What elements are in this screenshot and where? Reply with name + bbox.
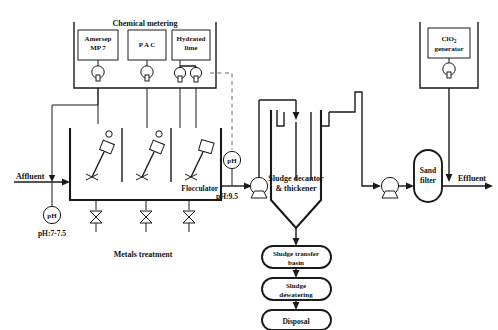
agitator-1[interactable] <box>86 131 114 180</box>
hydrated-lime-label-line1: Hydrated <box>177 35 206 43</box>
chemical-box-pac[interactable]: P A C <box>128 30 166 60</box>
diagram-canvas: Chemical metering Amersep MP 7 P A C Hyd… <box>0 0 498 330</box>
transfer-to-dewatering-arrow <box>293 270 300 278</box>
decantor-weir-right <box>321 110 329 126</box>
decantor-label-line1: Sludge decantor <box>268 174 324 183</box>
chemical-box-hydrated-lime[interactable]: Hydrated lime <box>172 30 210 60</box>
sludge-transfer-basin[interactable]: Sludge transfer basin <box>262 246 331 268</box>
pump-base-icon <box>447 72 451 78</box>
agitator-motor-icon[interactable] <box>156 131 162 137</box>
amersep-feed-arrow <box>49 175 55 182</box>
instrument-ph-influent[interactable]: pH pH:7-7.5 <box>38 182 66 238</box>
metals-treatment-label: Metals treatment <box>114 250 173 259</box>
instrument-ph-flocculator[interactable]: pH pH:9.5 <box>216 151 241 201</box>
overflow-line <box>329 92 376 186</box>
metals-treatment-tank[interactable]: Flocculator <box>70 128 221 200</box>
sand-filter-label-line1: Sand <box>420 166 437 175</box>
underflow-arrow <box>293 238 300 246</box>
pump-base-icon <box>96 75 100 81</box>
agitator-shaft <box>92 152 104 177</box>
amersep-feed-line <box>52 88 98 177</box>
clo2-vessel[interactable] <box>428 28 470 58</box>
sludge-dewatering-line1: Sludge <box>286 282 306 290</box>
chemical-metering-label: Chemical metering <box>112 19 177 28</box>
sludge-transfer-basin-line2: basin <box>288 259 304 267</box>
agitator-impeller-icon <box>136 174 148 180</box>
overflow-arrow <box>373 183 381 190</box>
drain-valve-2[interactable] <box>140 200 152 232</box>
process-flow-diagram: Chemical metering Amersep MP 7 P A C Hyd… <box>0 0 498 330</box>
dosing-pump-lime-1[interactable] <box>174 66 185 82</box>
pac-label-line1: P A C <box>139 41 156 49</box>
sand-filter[interactable]: Sand filter <box>414 150 442 202</box>
lime-manifold <box>180 60 196 66</box>
pump-base-icon <box>194 76 198 82</box>
dosing-pump-pac[interactable] <box>141 60 153 81</box>
flocculator-impeller-icon <box>185 174 197 180</box>
ph-influent-glyph: pH <box>47 212 57 220</box>
clo2-dosing-pump[interactable] <box>443 58 455 78</box>
sludge-dewatering[interactable]: Sludge dewatering <box>262 278 331 300</box>
hydrated-lime-label-line2: lime <box>185 44 198 52</box>
flocculator-shaft <box>191 152 203 177</box>
agitator-gearbox-icon <box>150 140 165 154</box>
pump-base-icon <box>145 75 149 81</box>
ph-influent-reading: pH:7-7.5 <box>38 229 66 238</box>
agitator-2[interactable] <box>136 131 164 180</box>
dosing-pump-lime-2[interactable] <box>190 66 201 82</box>
clo2-generator-box[interactable]: ClO2 generator <box>428 28 470 58</box>
agitator-impeller-icon <box>86 174 98 180</box>
sand-filter-label-line2: filter <box>420 176 436 185</box>
sludge-decantor-thickener[interactable]: Sludge decantor & thickener <box>268 110 329 228</box>
clo2-dose-arrow <box>446 174 453 182</box>
valve-icon[interactable] <box>140 211 152 223</box>
influent-stream: Affluent <box>14 172 70 185</box>
valve-icon[interactable] <box>90 211 102 223</box>
pump-2-discharge-arrow <box>406 183 414 190</box>
clo2-label-line2: generator <box>434 45 463 53</box>
decantor-feed-arrow <box>293 112 300 120</box>
sludge-transfer-basin-line1: Sludge transfer <box>273 250 319 258</box>
pump-2[interactable] <box>381 177 414 198</box>
ph-flocculator-reading: pH:9.5 <box>216 192 238 201</box>
drain-valve-3[interactable] <box>183 200 195 232</box>
amersep-label-line2: MP 7 <box>90 44 106 52</box>
drain-valve-1[interactable] <box>90 200 102 232</box>
pump-base-icon <box>178 76 182 82</box>
valve-icon[interactable] <box>183 211 195 223</box>
disposal-line1: Disposal <box>282 317 309 326</box>
decantor-overflow <box>329 92 381 189</box>
sludge-train: Sludge transfer basin Sludge dewatering … <box>262 228 331 330</box>
disposal[interactable]: Disposal <box>262 310 331 330</box>
decantor-label-line2: & thickener <box>275 184 317 193</box>
influent-label: Affluent <box>16 172 45 181</box>
chemical-metering-section: Chemical metering Amersep MP 7 P A C Hyd… <box>74 19 216 88</box>
agitator-motor-icon[interactable] <box>106 131 112 137</box>
transfer-to-decantor <box>221 183 252 190</box>
amersep-label-line1: Amersep <box>85 35 112 43</box>
effluent-arrow <box>485 183 493 190</box>
influent-arrow <box>62 179 70 186</box>
flocculator-label: Flocculator <box>181 184 218 193</box>
effluent-label: Effluent <box>458 174 486 183</box>
sludge-dewatering-line2: dewatering <box>279 291 313 299</box>
metals-tank-drains: Metals treatment <box>90 200 195 259</box>
ph-flocculator-glyph: pH <box>227 157 237 165</box>
dosing-pump-amersep[interactable] <box>92 60 104 81</box>
chemical-box-amersep[interactable]: Amersep MP 7 <box>78 30 118 60</box>
dewatering-to-disposal-arrow <box>293 302 300 310</box>
agitator-3-flocculator[interactable] <box>185 140 214 180</box>
agitator-shaft <box>142 152 154 177</box>
agitator-gearbox-icon <box>100 140 115 154</box>
flocculator-gearbox-icon <box>199 140 215 154</box>
decantor-weir-left <box>277 110 284 126</box>
